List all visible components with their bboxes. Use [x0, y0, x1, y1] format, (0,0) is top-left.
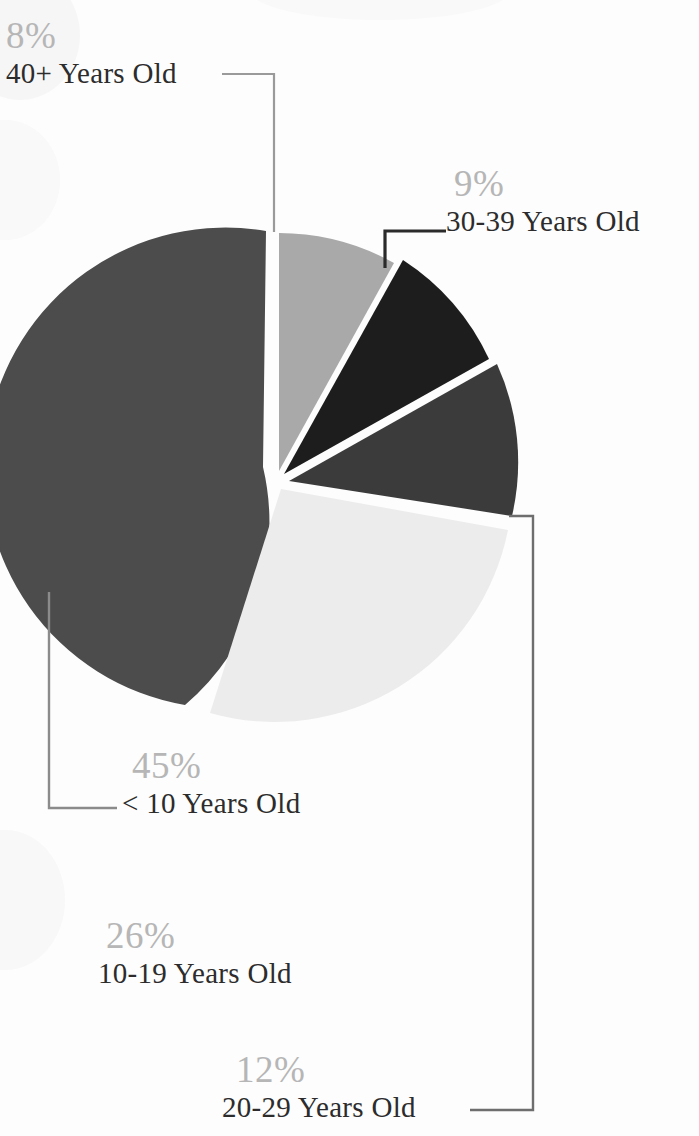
- callout-percent: 26%: [98, 916, 292, 956]
- callout-label: 10-19 Years Old: [98, 956, 292, 990]
- callout-percent: 9%: [446, 164, 640, 204]
- callout-10-19[interactable]: 26% 10-19 Years Old: [98, 916, 292, 990]
- leader-line-20-29: [470, 516, 533, 1110]
- callout-percent: 45%: [122, 746, 300, 786]
- callout-40-plus[interactable]: 8% 40+ Years Old: [6, 16, 177, 90]
- pie-slice-lt-10[interactable]: [0, 228, 269, 705]
- pie-chart-page: 8% 40+ Years Old 9% 30-39 Years Old 45% …: [0, 0, 699, 1136]
- callout-lt-10[interactable]: 45% < 10 Years Old: [122, 746, 300, 820]
- callout-label: 40+ Years Old: [6, 56, 177, 90]
- leader-line-30-39: [385, 231, 446, 268]
- callout-label: < 10 Years Old: [122, 786, 300, 820]
- callout-30-39[interactable]: 9% 30-39 Years Old: [446, 164, 640, 238]
- callout-percent: 8%: [6, 16, 177, 56]
- leader-line-40-plus: [222, 74, 274, 232]
- callout-label: 30-39 Years Old: [446, 204, 640, 238]
- callout-percent: 12%: [222, 1050, 416, 1090]
- callout-20-29[interactable]: 12% 20-29 Years Old: [222, 1050, 416, 1124]
- callout-label: 20-29 Years Old: [222, 1090, 416, 1124]
